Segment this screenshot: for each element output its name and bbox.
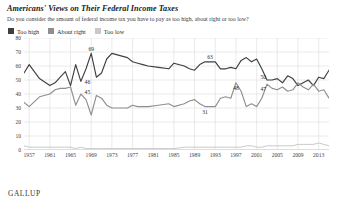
x-tick-label: 2001 — [251, 152, 262, 158]
page-subtitle: Do you consider the amount of federal in… — [7, 15, 331, 23]
y-tick-label: 60 — [15, 63, 21, 69]
data-label: 69 — [88, 46, 94, 52]
legend-label: Too low — [104, 28, 124, 35]
y-tick-label: 40 — [15, 91, 21, 97]
legend-item-too-high[interactable]: Too high — [8, 28, 39, 35]
data-label: 50 — [260, 74, 266, 80]
y-tick-label: 50 — [15, 77, 21, 83]
y-axis: 01020304050607080 — [6, 38, 22, 150]
legend-item-too-low[interactable]: Too low — [95, 28, 124, 35]
x-tick-label: 1957 — [24, 152, 35, 158]
x-tick-label: 1965 — [65, 152, 76, 158]
data-label: 63 — [207, 54, 213, 60]
x-tick-label: 1969 — [86, 152, 97, 158]
x-tick-label: 1997 — [230, 152, 241, 158]
legend-label: Too high — [17, 28, 39, 35]
data-label: 45 — [85, 89, 91, 95]
y-tick-label: 70 — [15, 49, 21, 55]
y-tick-label: 20 — [15, 119, 21, 125]
series-line-too-high — [24, 53, 329, 85]
chart-legend: Too highAbout rightToo low — [8, 26, 331, 36]
x-tick-label: 1981 — [148, 152, 159, 158]
x-tick-label: 2013 — [313, 152, 324, 158]
data-label: 31 — [202, 109, 208, 115]
x-tick-label: 1985 — [168, 152, 179, 158]
legend-swatch-icon — [8, 28, 14, 34]
legend-item-about-right[interactable]: About right — [48, 28, 86, 35]
series-line-too-low — [24, 143, 329, 149]
legend-label: About right — [57, 28, 86, 35]
x-tick-label: 1973 — [106, 152, 117, 158]
x-tick-label: 1977 — [127, 152, 138, 158]
x-tick-label: 2009 — [292, 152, 303, 158]
x-tick-label: 1961 — [44, 152, 55, 158]
legend-swatch-icon — [48, 28, 54, 34]
page-title: Americans' Views on Their Federal Income… — [7, 4, 331, 14]
legend-swatch-icon — [95, 28, 101, 34]
data-label: 48 — [233, 85, 239, 91]
plot-area: 01020304050607080 46456963314850475737 1… — [6, 38, 331, 166]
line-chart-svg: 46456963314850475737 — [24, 38, 329, 150]
y-tick-label: 0 — [18, 147, 21, 153]
x-tick-label: 2005 — [272, 152, 283, 158]
data-label: 47 — [260, 86, 266, 92]
x-tick-label: 1989 — [189, 152, 200, 158]
y-tick-label: 80 — [15, 35, 21, 41]
chart-page: Americans' Views on Their Federal Income… — [0, 0, 337, 201]
x-tick-label: 1993 — [210, 152, 221, 158]
x-axis: 1957196119651969197319771981198519891993… — [24, 152, 329, 164]
series-line-about-right — [24, 83, 329, 115]
data-label: 46 — [85, 79, 91, 85]
chart-canvas: 46456963314850475737 — [24, 38, 329, 150]
y-tick-label: 30 — [15, 105, 21, 111]
gallup-brand: GALLUP — [8, 189, 41, 198]
y-tick-label: 10 — [15, 133, 21, 139]
